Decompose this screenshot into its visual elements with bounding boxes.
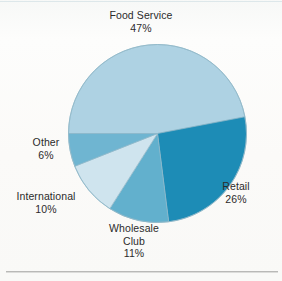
slice-label-international-value: 10% (16, 203, 75, 216)
pie-slice-retail (158, 117, 247, 222)
slice-label-wholesale-club-name-line1: Wholesale (109, 222, 159, 234)
slice-label-retail-value: 26% (222, 193, 249, 206)
slice-label-retail-name: Retail (222, 180, 249, 192)
slice-label-other: Other 6% (33, 136, 60, 161)
slice-label-wholesale-club: Wholesale Club 11% (109, 222, 159, 260)
slice-label-international-name: International (16, 190, 75, 202)
slice-label-wholesale-club-name-line2: Club (109, 235, 159, 248)
slice-label-food-service-value: 47% (0, 22, 282, 35)
chart-page: Food Service 47% Retail 26% Wholesale Cl… (0, 0, 282, 281)
pie-slices (69, 45, 247, 223)
slice-label-other-value: 6% (33, 149, 60, 162)
slice-label-retail: Retail 26% (222, 180, 249, 205)
slice-label-food-service-name: Food Service (109, 9, 172, 21)
bottom-divider-shadow (6, 272, 278, 273)
slice-label-international: International 10% (16, 190, 75, 215)
slice-label-other-name: Other (33, 136, 60, 148)
pie-slice-food-service (69, 45, 245, 134)
slice-label-wholesale-club-value: 11% (109, 247, 159, 260)
slice-label-food-service: Food Service 47% (0, 9, 282, 34)
